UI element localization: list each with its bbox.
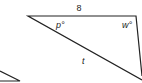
partial-triangle bbox=[0, 71, 20, 81]
side-label-t: t bbox=[82, 56, 85, 66]
triangle-diagram: 8 p° w° t bbox=[0, 0, 142, 83]
angle-label-w: w° bbox=[122, 20, 132, 30]
side-label-top: 8 bbox=[76, 3, 81, 13]
angle-label-p: p° bbox=[55, 20, 65, 30]
